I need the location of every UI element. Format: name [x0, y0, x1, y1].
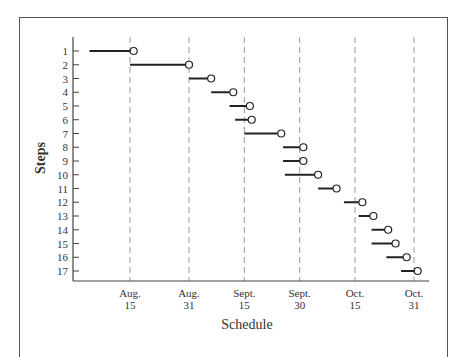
- y-tick-label: 8: [63, 141, 69, 153]
- x-tick-label-day: 31: [184, 299, 195, 311]
- y-axis-title: Steps: [33, 142, 48, 174]
- step-end-marker: [359, 199, 366, 206]
- step-end-marker: [208, 75, 215, 82]
- step-end-marker: [370, 213, 377, 220]
- y-axis-ticks: 1234567891011121314151617: [57, 45, 79, 277]
- y-tick-label: 14: [57, 224, 69, 236]
- y-tick-label: 1: [63, 45, 69, 57]
- step-end-marker: [333, 185, 340, 192]
- y-tick-label: 5: [63, 100, 69, 112]
- step-end-marker: [246, 103, 253, 110]
- y-tick-label: 9: [63, 155, 69, 167]
- y-tick-label: 17: [57, 265, 69, 277]
- x-tick-label-day: 15: [239, 299, 251, 311]
- y-tick-label: 16: [57, 251, 69, 263]
- y-tick-label: 13: [57, 210, 69, 222]
- x-tick-label-month: Oct.: [346, 287, 365, 299]
- step-end-marker: [315, 171, 322, 178]
- step-bars: [89, 48, 421, 275]
- y-tick-label: 15: [57, 238, 69, 250]
- y-tick-label: 2: [63, 59, 69, 71]
- x-tick-label-day: 15: [349, 299, 361, 311]
- step-end-marker: [278, 130, 285, 137]
- step-end-marker: [300, 158, 307, 165]
- step-end-marker: [385, 226, 392, 233]
- x-tick-label-day: 30: [294, 299, 306, 311]
- x-tick-label-month: Sept.: [289, 287, 312, 299]
- y-tick-label: 4: [63, 86, 69, 98]
- x-tick-label-month: Sept.: [233, 287, 256, 299]
- step-end-marker: [403, 254, 410, 261]
- step-end-marker: [186, 61, 193, 68]
- step-end-marker: [248, 116, 255, 123]
- step-end-marker: [230, 89, 237, 96]
- y-tick-label: 3: [63, 73, 69, 85]
- x-tick-label-month: Oct.: [405, 287, 424, 299]
- y-tick-label: 10: [57, 169, 69, 181]
- y-tick-label: 6: [63, 114, 69, 126]
- step-end-marker: [130, 48, 137, 55]
- x-tick-label-day: 31: [409, 299, 420, 311]
- date-gridlines: [130, 37, 414, 281]
- step-end-marker: [414, 268, 421, 275]
- step-end-marker: [300, 144, 307, 151]
- y-tick-label: 12: [57, 196, 68, 208]
- x-axis-ticks: Aug.15Aug.31Sept.15Sept.30Oct.15Oct.31: [119, 287, 423, 311]
- x-axis-title: Schedule: [221, 317, 272, 332]
- y-tick-label: 7: [63, 128, 69, 140]
- x-tick-label-day: 15: [125, 299, 137, 311]
- x-tick-label-month: Aug.: [178, 287, 200, 299]
- step-end-marker: [392, 240, 399, 247]
- y-tick-label: 11: [57, 183, 68, 195]
- x-tick-label-month: Aug.: [119, 287, 141, 299]
